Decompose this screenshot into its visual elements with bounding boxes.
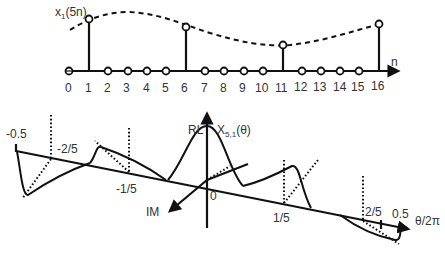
svg-text:4: 4 — [143, 81, 150, 95]
svg-text:10: 10 — [255, 81, 269, 95]
origin-label: 0 — [210, 189, 217, 203]
signal-label: x1(5n) — [55, 5, 87, 21]
n-tick-labels: 0 1 2 3 4 5 6 7 8 9 10 11 12 13 14 15 16 — [65, 79, 385, 95]
spectrum-label: X5,1(θ) — [217, 123, 251, 139]
lobe-1-5-curve — [243, 166, 311, 208]
svg-text:5: 5 — [162, 81, 169, 95]
top-stem-plot: n x1(5n) — [55, 5, 398, 95]
tick-neg-2-5: -2/5 — [57, 142, 78, 156]
svg-text:9: 9 — [239, 81, 246, 95]
svg-text:2: 2 — [104, 81, 111, 95]
lobe-neg-2-5-imag-dotted — [22, 159, 51, 199]
diagram-canvas: n x1(5n) — [0, 0, 445, 254]
tick-neg-0-5: -0.5 — [6, 127, 27, 141]
svg-text:0: 0 — [65, 81, 72, 95]
svg-text:14: 14 — [333, 80, 347, 94]
tick-0-5: 0.5 — [392, 207, 409, 221]
theta-axis-label: θ/2π — [415, 214, 440, 228]
n-axis-label: n — [391, 55, 398, 69]
svg-text:11: 11 — [275, 81, 288, 95]
im-axis-back — [207, 164, 248, 180]
svg-text:8: 8 — [220, 81, 227, 95]
svg-text:3: 3 — [123, 81, 130, 95]
svg-text:6: 6 — [181, 81, 188, 95]
tick-2-5: 2/5 — [365, 205, 382, 219]
rl-axis-label: RL — [188, 123, 204, 137]
im-axis-label: IM — [146, 205, 159, 219]
signal-envelope — [70, 12, 380, 45]
svg-text:12: 12 — [294, 80, 308, 94]
svg-text:7: 7 — [201, 81, 208, 95]
stem-n11-head — [280, 42, 287, 49]
bottom-spectrum-plot: RL X5,1(θ) IM 0 θ/2π -0.5 -2/5 -1/5 1/5 … — [6, 114, 440, 244]
svg-text:15: 15 — [351, 80, 365, 94]
svg-text:13: 13 — [313, 80, 327, 94]
svg-text:1: 1 — [85, 81, 92, 95]
svg-text:16: 16 — [371, 79, 385, 93]
tick-neg-1-5: -1/5 — [116, 182, 137, 196]
tick-1-5: 1/5 — [273, 211, 290, 225]
stem-n6-head — [183, 24, 190, 31]
stem-n16-head — [376, 21, 383, 28]
